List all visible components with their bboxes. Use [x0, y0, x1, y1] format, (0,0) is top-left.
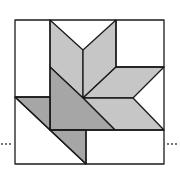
right-continuation-dots [167, 143, 177, 145]
left-continuation-dots [1, 143, 11, 145]
quilt-block-diagram [0, 0, 180, 171]
